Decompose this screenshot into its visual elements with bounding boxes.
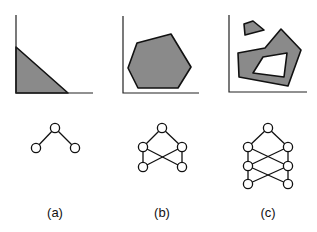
plot-a [16, 15, 93, 93]
graph-node [283, 161, 292, 170]
plot-c [229, 15, 307, 92]
graph-node [263, 123, 272, 132]
graph-node [138, 142, 147, 151]
graph-c [243, 123, 292, 188]
graph-node [177, 142, 186, 151]
graph-node [50, 123, 59, 132]
graph-node [283, 142, 292, 151]
graph-node [70, 143, 79, 152]
feasible-region [244, 21, 264, 35]
panel-a: (a) [16, 15, 93, 220]
feasible-region [128, 34, 191, 88]
plot-b [123, 16, 199, 93]
graph-node [243, 142, 252, 151]
panel-b: (b) [123, 16, 199, 220]
panel-label-b: (b) [154, 205, 170, 220]
graph-node [157, 123, 166, 132]
panel-c: (c) [229, 15, 307, 220]
graph-node [243, 179, 252, 188]
graph-node [31, 143, 40, 152]
graph-node [243, 161, 252, 170]
panel-label-a: (a) [47, 205, 63, 220]
graph-b [138, 123, 186, 171]
graph-a [31, 123, 79, 152]
panel-label-c: (c) [260, 205, 275, 220]
feasible-region [16, 47, 68, 93]
diagram-canvas: (a) (b) (c) [0, 0, 317, 232]
graph-node [138, 162, 147, 171]
graph-node [283, 179, 292, 188]
graph-node [177, 162, 186, 171]
